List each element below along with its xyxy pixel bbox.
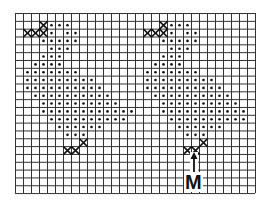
stitch-dot	[90, 102, 93, 105]
stitch-dot	[98, 126, 101, 129]
stitch-dot	[26, 87, 29, 90]
stitch-dot	[106, 94, 109, 97]
stitch-dot	[170, 79, 173, 82]
stitch-dot	[202, 118, 205, 121]
stitch-dot	[186, 118, 189, 121]
stitch-dot	[154, 71, 157, 74]
stitch-dot	[242, 110, 245, 113]
stitch-dot	[178, 118, 181, 121]
stitch-dot	[50, 118, 53, 121]
stitch-dot	[170, 102, 173, 105]
stitch-dot	[50, 94, 53, 97]
stitch-dot	[90, 87, 93, 90]
stitch-dot	[58, 94, 61, 97]
stitch-dot	[34, 71, 37, 74]
stitch-dot	[50, 24, 53, 27]
stitch-dot	[50, 32, 53, 35]
marker-label-m: M	[184, 172, 203, 192]
stitch-dot	[66, 94, 69, 97]
stitch-dot	[42, 87, 45, 90]
stitch-dot	[194, 94, 197, 97]
stitch-dot	[34, 63, 37, 66]
stitch-dot	[170, 71, 173, 74]
stitch-dot	[66, 118, 69, 121]
stitch-dot	[146, 71, 149, 74]
stitch-dot	[218, 87, 221, 90]
stitch-dot	[154, 63, 157, 66]
stitch-dot	[210, 110, 213, 113]
stitch-dot	[74, 32, 77, 35]
stitch-dot	[98, 87, 101, 90]
stitch-dot	[178, 63, 181, 66]
stitch-dot	[194, 102, 197, 105]
stitch-dot	[106, 110, 109, 113]
stitch-dot	[74, 87, 77, 90]
stitch-dot	[98, 110, 101, 113]
stitch-dot	[170, 118, 173, 121]
stitch-dot	[162, 71, 165, 74]
stitch-dot	[66, 47, 69, 50]
stitch-dot	[178, 110, 181, 113]
stitch-dot	[162, 87, 165, 90]
stitch-dot	[58, 24, 61, 27]
stitch-dot	[74, 118, 77, 121]
stitch-dot	[74, 40, 77, 43]
stitch-dot	[186, 32, 189, 35]
stitch-dot	[210, 102, 213, 105]
stitch-dot	[178, 24, 181, 27]
stitch-dot	[202, 102, 205, 105]
stitch-dot	[202, 94, 205, 97]
stitch-dot	[114, 102, 117, 105]
stitch-dot	[194, 71, 197, 74]
stitch-dot	[234, 110, 237, 113]
stitch-dot	[66, 32, 69, 35]
stitch-dot	[162, 55, 165, 58]
stitch-dot	[50, 87, 53, 90]
stitch-dot	[82, 94, 85, 97]
stitch-dot	[98, 118, 101, 121]
stitch-dot	[186, 126, 189, 129]
stitch-dot	[26, 71, 29, 74]
stitch-dot	[58, 55, 61, 58]
stitch-dot	[186, 134, 189, 137]
stitch-dot	[34, 87, 37, 90]
stitch-dot	[170, 47, 173, 50]
stitch-dot	[50, 71, 53, 74]
stitch-dot	[170, 87, 173, 90]
stitch-dot	[74, 110, 77, 113]
stitch-dot	[210, 126, 213, 129]
stitch-dot	[42, 63, 45, 66]
stitch-dot	[170, 40, 173, 43]
stitch-dot	[34, 94, 37, 97]
stitch-dot	[226, 118, 229, 121]
stitch-dot	[58, 71, 61, 74]
stitch-dot	[218, 94, 221, 97]
stitch-dot	[194, 126, 197, 129]
stitch-dot	[66, 87, 69, 90]
stitch-dot	[66, 79, 69, 82]
stitch-dot	[66, 40, 69, 43]
stitch-dot	[162, 63, 165, 66]
stitch-dot	[226, 102, 229, 105]
stitch-dot	[90, 118, 93, 121]
stitch-dot	[210, 118, 213, 121]
stitch-dot	[218, 110, 221, 113]
stitch-dot	[122, 118, 125, 121]
stitch-dot	[130, 110, 133, 113]
stitch-dot	[122, 110, 125, 113]
stitch-dot	[42, 110, 45, 113]
stitch-dot	[66, 126, 69, 129]
stitch-dot	[42, 94, 45, 97]
stitch-dot	[178, 94, 181, 97]
stitch-dot	[194, 134, 197, 137]
stitch-dot	[210, 94, 213, 97]
stitch-dot	[170, 24, 173, 27]
stitch-dot	[162, 102, 165, 105]
stitch-dot	[58, 40, 61, 43]
stitch-dot	[210, 79, 213, 82]
stitch-dot	[186, 87, 189, 90]
stitch-dot	[74, 71, 77, 74]
stitch-dot	[74, 126, 77, 129]
knitting-chart	[0, 0, 273, 204]
stitch-dot	[82, 102, 85, 105]
